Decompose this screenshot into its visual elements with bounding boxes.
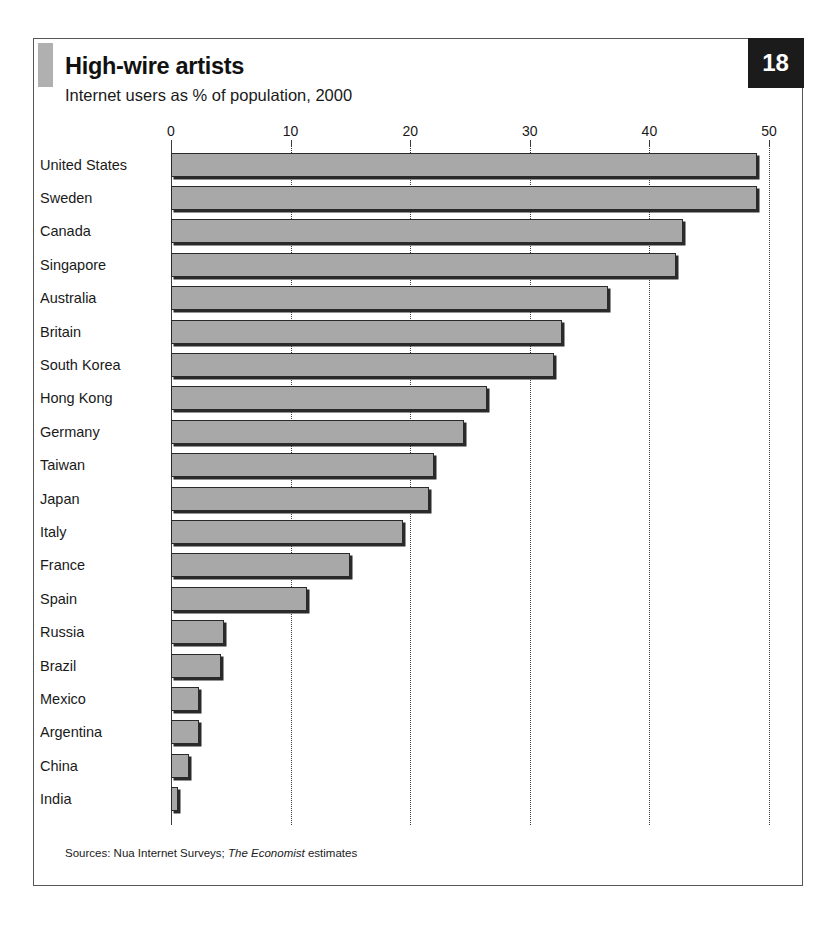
category-label: Mexico xyxy=(34,691,156,707)
bar-row: Mexico xyxy=(34,682,804,715)
bar xyxy=(171,253,676,277)
bar-row: Italy xyxy=(34,515,804,548)
bar xyxy=(171,553,350,577)
category-label: Taiwan xyxy=(34,457,156,473)
bar xyxy=(171,186,757,210)
bar xyxy=(171,654,221,678)
category-label: Argentina xyxy=(34,724,156,740)
sources-note: Sources: Nua Internet Surveys; The Econo… xyxy=(65,847,357,859)
bar-row: France xyxy=(34,549,804,582)
bar-row: Singapore xyxy=(34,248,804,281)
category-label: China xyxy=(34,758,156,774)
category-label: India xyxy=(34,791,156,807)
bar-row: Argentina xyxy=(34,716,804,749)
x-axis-tick-labels: 01020304050 xyxy=(34,123,804,145)
bar xyxy=(171,620,224,644)
sources-prefix: Sources: Nua Internet Surveys; xyxy=(65,847,225,859)
bar xyxy=(171,787,178,811)
bar-row: United States xyxy=(34,148,804,181)
bar-row: Brazil xyxy=(34,649,804,682)
category-label: Spain xyxy=(34,591,156,607)
bar xyxy=(171,286,608,310)
category-label: France xyxy=(34,557,156,573)
bar-row: Hong Kong xyxy=(34,382,804,415)
chart-figure: High-wire artists Internet users as % of… xyxy=(33,38,803,886)
bar-row: Australia xyxy=(34,282,804,315)
bar xyxy=(171,420,464,444)
category-label: Brazil xyxy=(34,658,156,674)
bar-row: Taiwan xyxy=(34,449,804,482)
chart-title: High-wire artists xyxy=(65,53,244,80)
category-label: Japan xyxy=(34,491,156,507)
bar xyxy=(171,386,487,410)
bar-row: South Korea xyxy=(34,348,804,381)
bar-row: Japan xyxy=(34,482,804,515)
bar xyxy=(171,520,403,544)
sources-italic: The Economist xyxy=(228,847,305,859)
category-label: Canada xyxy=(34,223,156,239)
x-tick-label-30: 30 xyxy=(522,123,538,139)
bar xyxy=(171,153,757,177)
bar xyxy=(171,720,199,744)
bar xyxy=(171,754,189,778)
category-label: Germany xyxy=(34,424,156,440)
bar-row: Canada xyxy=(34,215,804,248)
bar xyxy=(171,320,562,344)
bar xyxy=(171,687,199,711)
category-label: Australia xyxy=(34,290,156,306)
category-label: Russia xyxy=(34,624,156,640)
category-label: South Korea xyxy=(34,357,156,373)
bar-row: India xyxy=(34,783,804,816)
x-tick-label-20: 20 xyxy=(402,123,418,139)
bar-row: Sweden xyxy=(34,181,804,214)
x-tick-label-0: 0 xyxy=(167,123,175,139)
chart-subtitle: Internet users as % of population, 2000 xyxy=(65,86,352,105)
page-number-badge: 18 xyxy=(748,38,804,88)
x-tick-label-10: 10 xyxy=(283,123,299,139)
category-label: Hong Kong xyxy=(34,390,156,406)
category-label: Italy xyxy=(34,524,156,540)
bar xyxy=(171,587,307,611)
category-label: Britain xyxy=(34,324,156,340)
accent-square xyxy=(38,43,53,87)
bar-row: Britain xyxy=(34,315,804,348)
bar-row: Germany xyxy=(34,415,804,448)
chart-header: High-wire artists Internet users as % of… xyxy=(34,39,802,123)
sources-suffix: estimates xyxy=(308,847,357,859)
bar-row: China xyxy=(34,749,804,782)
bar-row: Spain xyxy=(34,582,804,615)
bar-rows: United StatesSwedenCanadaSingaporeAustra… xyxy=(34,145,804,843)
plot-area: 01020304050 United StatesSwedenCanadaSin… xyxy=(34,123,804,843)
category-label: Sweden xyxy=(34,190,156,206)
bar xyxy=(171,353,554,377)
x-tick-label-50: 50 xyxy=(761,123,777,139)
bar xyxy=(171,219,683,243)
x-tick-label-40: 40 xyxy=(642,123,658,139)
bar xyxy=(171,487,429,511)
bar-row: Russia xyxy=(34,616,804,649)
category-label: United States xyxy=(34,157,156,173)
category-label: Singapore xyxy=(34,257,156,273)
bar xyxy=(171,453,434,477)
